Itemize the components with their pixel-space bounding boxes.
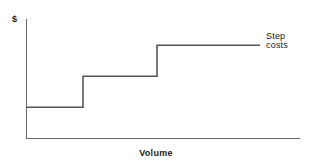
series-annotation-line-2: costs xyxy=(266,41,288,50)
series-annotation-step-costs: Step costs xyxy=(266,32,288,51)
x-axis-label: Volume xyxy=(0,149,312,158)
step-costs-chart-figure: $ Volume Step costs xyxy=(0,0,312,166)
y-axis-label: $ xyxy=(12,15,17,24)
step-costs-series-line xyxy=(26,45,260,107)
chart-plot-area xyxy=(0,0,312,166)
